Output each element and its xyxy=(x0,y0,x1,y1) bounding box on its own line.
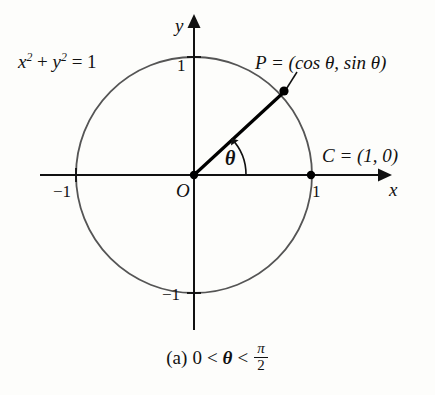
caption-zero: 0 xyxy=(192,347,202,369)
eq-plus: + xyxy=(32,51,52,72)
y-axis-label: y xyxy=(175,16,183,35)
tick-label-y-negative: −1 xyxy=(162,286,180,303)
unit-circle-figure: x2 + y2 = 1 P = (cos θ, sin θ) C = (1, 0… xyxy=(0,0,435,395)
point-c-label: C = (1, 0) xyxy=(322,146,398,165)
caption-fraction-pi-over-two: π 2 xyxy=(254,341,268,374)
point-marker-origin xyxy=(190,171,198,179)
point-marker-p xyxy=(279,86,288,95)
caption-theta: θ xyxy=(223,347,233,369)
tick-label-y-positive: 1 xyxy=(177,57,186,74)
theta-symbol-label: θ xyxy=(225,148,235,168)
x-axis-label: x xyxy=(389,180,397,199)
eq-base-y: y xyxy=(53,51,61,72)
origin-label: O xyxy=(176,181,190,200)
fraction-numerator: π xyxy=(254,341,268,357)
fraction-denominator: 2 xyxy=(254,357,268,374)
caption-less-than-2: < xyxy=(237,347,248,369)
tick-label-x-positive: 1 xyxy=(312,183,321,200)
radius-segment-op xyxy=(194,92,284,175)
point-p-label: P = (cos θ, sin θ) xyxy=(255,53,386,72)
figure-caption: (a) 0 < θ < π 2 xyxy=(0,342,435,375)
tick-label-x-negative: −1 xyxy=(53,183,71,200)
caption-less-than-1: < xyxy=(207,347,218,369)
eq-equals: = 1 xyxy=(67,51,97,72)
circle-equation-label: x2 + y2 = 1 xyxy=(18,52,97,71)
caption-index-label: (a) xyxy=(166,347,187,369)
point-marker-c xyxy=(307,171,315,179)
y-axis-arrowhead xyxy=(188,14,201,28)
